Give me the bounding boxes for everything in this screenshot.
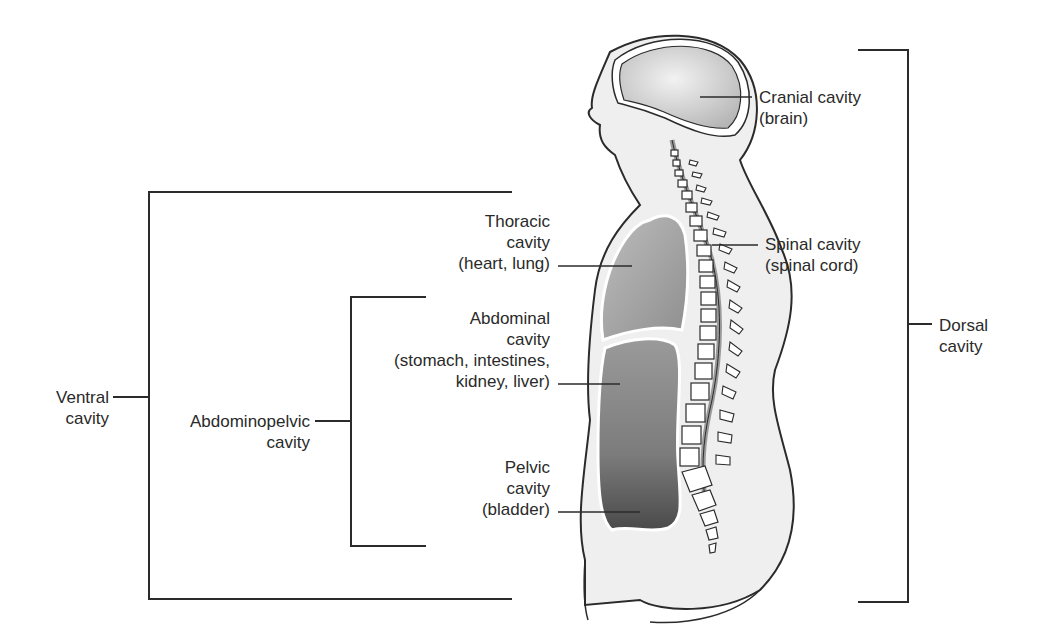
thoracic-line2: cavity <box>458 232 550 253</box>
ventral-line1: Ventral <box>56 387 109 408</box>
dorsal-line2: cavity <box>939 336 988 357</box>
thoracic-line3: (heart, lung) <box>458 253 550 274</box>
pelvic-line1: Pelvic <box>482 457 550 478</box>
abdominal-line2: cavity <box>394 329 550 350</box>
abdominopelvic-cavity-label: Abdominopelvic cavity <box>190 411 310 453</box>
ventral-line2: cavity <box>56 408 109 429</box>
spinal-line2: (spinal cord) <box>765 255 860 276</box>
cranial-line1: Cranial cavity <box>759 87 861 108</box>
pelvic-cavity-label: Pelvic cavity (bladder) <box>482 457 550 520</box>
abdominopelvic-line1: Abdominopelvic <box>190 411 310 432</box>
pelvic-line2: cavity <box>482 478 550 499</box>
spinal-line1: Spinal cavity <box>765 234 860 255</box>
cranial-cavity-label: Cranial cavity (brain) <box>759 87 861 129</box>
ventral-bracket <box>113 192 512 599</box>
abdominal-cavity-label: Abdominal cavity (stomach, intestines, k… <box>394 308 550 392</box>
cranial-line2: (brain) <box>759 108 861 129</box>
dorsal-line1: Dorsal <box>939 315 988 336</box>
thoracic-line1: Thoracic <box>458 211 550 232</box>
abdominopelvic-cavity <box>598 339 680 530</box>
spinal-cavity-label: Spinal cavity (spinal cord) <box>765 234 860 276</box>
dorsal-cavity-label: Dorsal cavity <box>939 315 988 357</box>
abdominal-line4: kidney, liver) <box>394 371 550 392</box>
abdominal-line1: Abdominal <box>394 308 550 329</box>
abdominopelvic-line2: cavity <box>190 432 310 453</box>
pelvic-line3: (bladder) <box>482 499 550 520</box>
thoracic-cavity-label: Thoracic cavity (heart, lung) <box>458 211 550 274</box>
abdominal-line3: (stomach, intestines, <box>394 350 550 371</box>
ventral-cavity-label: Ventral cavity <box>56 387 109 429</box>
dorsal-bracket <box>858 50 932 602</box>
